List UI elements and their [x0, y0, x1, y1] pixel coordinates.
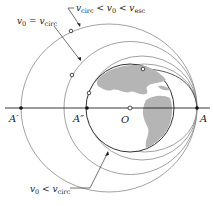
point-a	[195, 106, 199, 110]
leader-circular	[54, 26, 80, 60]
launch-marker-inner-orbit	[87, 91, 91, 95]
label-a-double-prime: A″	[72, 113, 84, 124]
launch-marker-large-orbit	[69, 29, 73, 33]
point-a-prime	[19, 106, 23, 110]
arrowhead-escape-band	[77, 23, 81, 27]
arrowhead-suborbital	[105, 151, 109, 156]
orbit-diagram: A′ A″ O A vcirc < v0 < vesc v0 = vcirc v…	[0, 0, 213, 206]
leader-suborbital	[70, 152, 108, 188]
launch-marker-circular-orbit	[70, 73, 74, 77]
label-circular: v0 = vcirc	[17, 16, 57, 28]
label-suborbital: v0 < vcirc	[30, 184, 70, 196]
label-a-prime: A′	[8, 113, 19, 124]
label-escape-band: vcirc < v0 < vesc	[76, 3, 146, 15]
point-a-double-prime	[85, 106, 89, 110]
launch-marker-suborbital	[141, 67, 145, 71]
label-o: O	[121, 114, 129, 125]
point-o-center	[128, 106, 132, 110]
label-a: A	[199, 113, 207, 124]
land-mass-south	[143, 96, 172, 148]
